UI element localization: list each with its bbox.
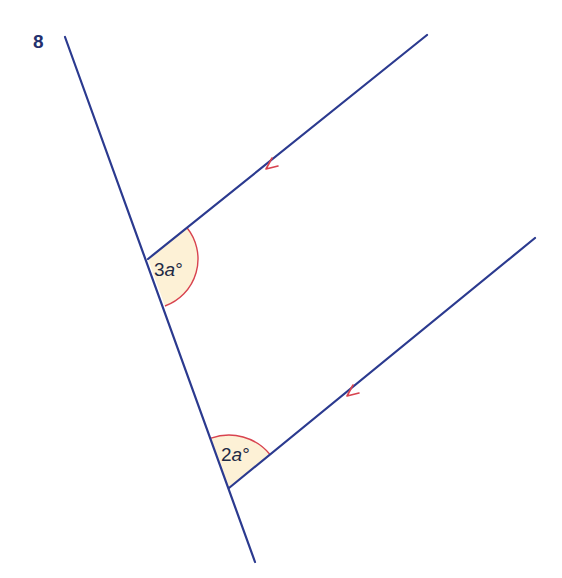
angle-var: a	[165, 259, 176, 280]
angle-var: a	[232, 444, 243, 465]
angle-label-2a: 2a°	[221, 444, 250, 465]
transversal-line	[65, 37, 255, 562]
parallel-lines-diagram: 3a° 2a°	[0, 0, 562, 578]
angle-coef: 3	[154, 259, 165, 280]
angle-unit: °	[242, 444, 250, 465]
angle-coef: 2	[221, 444, 232, 465]
upper-parallel-line	[148, 35, 427, 259]
angle-unit: °	[175, 259, 183, 280]
angle-label-3a: 3a°	[154, 259, 183, 280]
lower-parallel-line	[229, 238, 535, 488]
